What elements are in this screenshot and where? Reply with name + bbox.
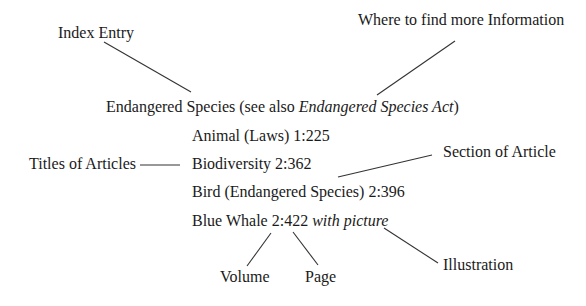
index-diagram: Index Entry Where to find more Informati…	[0, 0, 586, 306]
label-volume: Volume	[220, 269, 269, 285]
index-subentry: Blue Whale 2:422 with picture	[192, 213, 388, 229]
label-more-info: Where to find more Information	[358, 12, 564, 28]
index-subentry: Bird (Endangered Species) 2:396	[192, 184, 405, 200]
illustration-note: with picture	[312, 212, 388, 229]
index-subentry-text: Blue Whale 2:422	[192, 212, 312, 229]
index-heading-close: )	[453, 98, 458, 115]
see-also-reference: Endangered Species Act	[299, 98, 454, 115]
page-connector	[293, 232, 318, 265]
index-heading: Endangered Species (see also Endangered …	[106, 99, 459, 115]
label-index-entry: Index Entry	[58, 25, 134, 41]
volume-connector	[247, 233, 271, 266]
more-info-connector	[377, 41, 455, 95]
index-entry-connector	[104, 42, 191, 92]
label-titles-of-articles: Titles of Articles	[29, 156, 136, 172]
section-connector	[338, 155, 432, 177]
index-subentry: Biodiversity 2:362	[192, 156, 312, 172]
label-section-of-article: Section of Article	[443, 144, 556, 160]
index-subentry: Animal (Laws) 1:225	[192, 128, 330, 144]
illustration-connector	[384, 228, 438, 263]
label-illustration: Illustration	[443, 257, 513, 273]
index-heading-text: Endangered Species (see also	[106, 98, 299, 115]
label-page: Page	[305, 269, 336, 285]
